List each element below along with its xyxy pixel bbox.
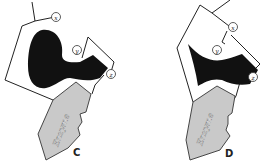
site-y-c: y (73, 46, 82, 55)
site-x-d: x (229, 23, 238, 32)
panel-label-d: D (225, 148, 233, 159)
site-y-d: y (213, 46, 222, 55)
site-z-d: z (249, 73, 258, 82)
site-y-label: y (74, 47, 79, 55)
site-z-c: z (107, 70, 116, 79)
panel-d: x y z Enzyme D (177, 0, 260, 160)
site-x-c: x (52, 13, 61, 22)
substrate-blob-c (28, 30, 108, 88)
diagram-canvas: x y z Enzyme C x y z En (0, 0, 262, 164)
substrate-blob-d (188, 44, 258, 86)
site-y-label: y (214, 47, 219, 55)
panel-c: x y z Enzyme C (5, 2, 116, 160)
panel-label-c: C (73, 147, 80, 158)
